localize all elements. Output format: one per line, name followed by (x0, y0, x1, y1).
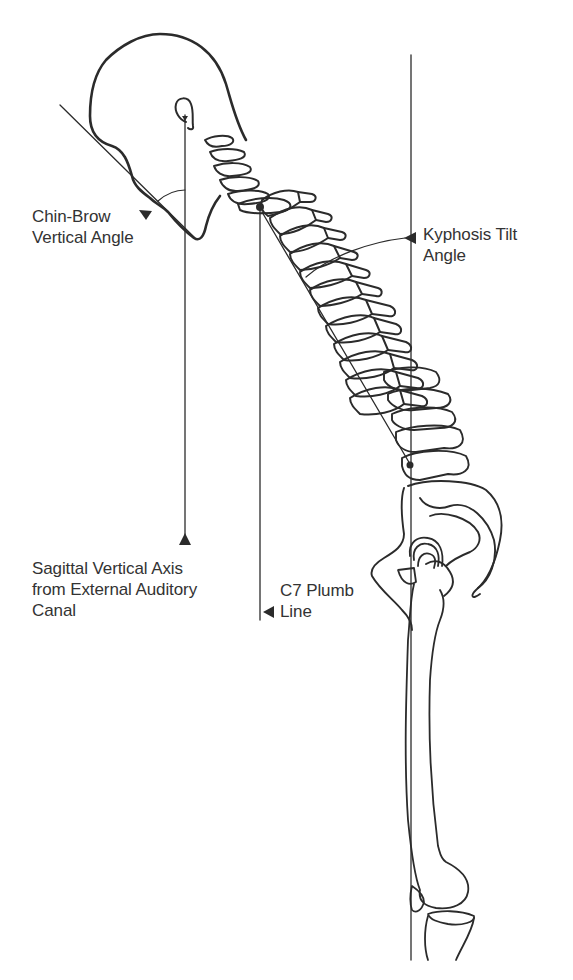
sagittal-vertical-axis-label: Sagittal Vertical Axis from External Aud… (32, 558, 197, 621)
chin-brow-arrowhead-icon (139, 210, 152, 220)
spine-alignment-diagram (0, 0, 573, 980)
c7-label-line2: Line (280, 601, 354, 622)
thoracic-spine (261, 190, 427, 414)
c7-label-line1: C7 Plumb (280, 580, 354, 601)
chin-brow-label-line2: Vertical Angle (32, 227, 134, 248)
kyphosis-arrowhead-icon (404, 232, 416, 244)
sva-label-line2: from External Auditory (32, 579, 197, 600)
tibia (425, 911, 474, 960)
kyphosis-tilt-angle-label: Kyphosis Tilt Angle (423, 224, 517, 266)
c7-plumb-line-label: C7 Plumb Line (280, 580, 354, 622)
kyphosis-label-line1: Kyphosis Tilt (423, 224, 517, 245)
lumbar-spine (384, 367, 469, 480)
hip-joint (398, 538, 442, 584)
cervical-spine (205, 136, 290, 213)
kyphosis-label-line2: Angle (423, 245, 517, 266)
chin-brow-label-line1: Chin-Brow (32, 206, 134, 227)
chin-brow-vertical-angle-label: Chin-Brow Vertical Angle (32, 206, 134, 248)
c7-arrowhead-icon (263, 606, 274, 618)
patella (411, 886, 425, 912)
chin-brow-angle-arc (158, 190, 185, 201)
femur (406, 584, 469, 908)
t12-marker (407, 462, 414, 469)
sva-label-line1: Sagittal Vertical Axis (32, 558, 197, 579)
pelvis (372, 481, 502, 630)
sva-label-line3: Canal (32, 600, 197, 621)
sva-arrowhead-icon (179, 533, 191, 545)
